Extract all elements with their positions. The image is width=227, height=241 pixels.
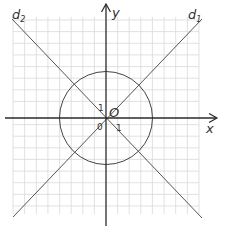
zero-label: 0 <box>97 122 103 132</box>
x-axis-label: x <box>205 121 214 136</box>
origin-label: O <box>109 105 119 120</box>
line-d1-label: d1 <box>188 7 201 24</box>
unit-x-label: 1 <box>116 123 122 133</box>
coordinate-diagram: x y O 0 1 1 d2 d1 <box>0 0 227 241</box>
unit-y-label: 1 <box>98 103 104 113</box>
line-d2-label: d2 <box>12 7 25 24</box>
y-axis-label: y <box>111 5 120 20</box>
